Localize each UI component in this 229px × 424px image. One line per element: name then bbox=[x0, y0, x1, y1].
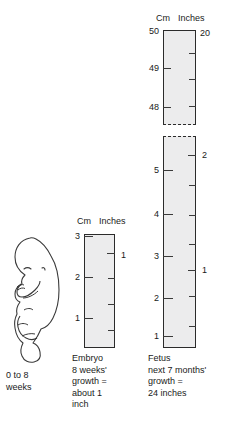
cm-label-5: 5 bbox=[143, 166, 159, 175]
embryo-illustration bbox=[4, 232, 72, 366]
cm-label-1: 1 bbox=[143, 332, 159, 341]
inch-label-20: 20 bbox=[200, 29, 210, 38]
ruler-edge-right bbox=[195, 30, 196, 125]
embryo-caption: Embryo 8 weeks' growth = about 1 inch bbox=[72, 353, 142, 411]
cm-tick-4 bbox=[163, 214, 173, 215]
ruler-edge-right bbox=[195, 136, 196, 348]
cm-tick-3 bbox=[84, 236, 93, 237]
cm-label-4: 4 bbox=[143, 210, 159, 219]
fetus-ruler-bottom bbox=[163, 136, 196, 348]
cm-label-48: 48 bbox=[143, 103, 159, 112]
cm-tick-48 bbox=[163, 107, 171, 108]
ruler-edge-left bbox=[84, 234, 85, 348]
cm-label-49: 49 bbox=[143, 64, 159, 73]
ruler-edge-left bbox=[163, 30, 164, 125]
embryo-inches-header: Inches bbox=[99, 216, 126, 226]
inch-minor-tick bbox=[189, 326, 196, 327]
inch-tick-1 bbox=[188, 270, 196, 271]
embryo-inch-label-1: 1 bbox=[121, 251, 126, 260]
inch-minor-tick bbox=[189, 244, 196, 245]
embryo-drawing-svg bbox=[4, 232, 72, 366]
embryo-body-outline bbox=[15, 238, 59, 362]
cm-tick-2 bbox=[163, 298, 173, 299]
inch-minor-tick bbox=[189, 296, 196, 297]
ruler-scale-break-bottom bbox=[163, 124, 196, 125]
ruler-edge-top bbox=[163, 30, 196, 31]
embryo-stage-caption: 0 to 8 weeks bbox=[6, 370, 68, 393]
cm-label-2: 2 bbox=[143, 294, 159, 303]
inch-label-1: 1 bbox=[202, 266, 207, 275]
inch-tick-2 bbox=[188, 155, 196, 156]
fetus-ruler-top bbox=[163, 30, 196, 125]
inch-minor-tick bbox=[189, 106, 196, 107]
cm-tick-5 bbox=[163, 170, 173, 171]
ruler-edge-left bbox=[163, 136, 164, 348]
embryo-cm-header: Cm bbox=[77, 216, 91, 226]
figure-canvas: Cm Inches 50 49 48 20 bbox=[0, 0, 229, 424]
fetus-top-cm-header: Cm bbox=[156, 13, 170, 23]
inch-minor-tick bbox=[189, 215, 196, 216]
cm-tick-3 bbox=[163, 256, 173, 257]
cm-tick-2 bbox=[84, 277, 93, 278]
inch-minor-tick bbox=[108, 304, 115, 305]
inch-minor-tick bbox=[189, 79, 196, 80]
inch-minor-tick bbox=[189, 185, 196, 186]
embryo-ruler bbox=[84, 234, 115, 348]
inch-tick-1 bbox=[107, 253, 115, 254]
cm-tick-1 bbox=[84, 318, 93, 319]
inch-minor-tick bbox=[108, 278, 115, 279]
ruler-edge-bottom bbox=[84, 347, 115, 348]
inch-minor-tick bbox=[189, 53, 196, 54]
cm-label-3: 3 bbox=[143, 252, 159, 261]
inch-minor-tick bbox=[108, 330, 115, 331]
ruler-edge-top bbox=[84, 234, 115, 235]
cm-tick-49 bbox=[163, 68, 171, 69]
fetus-caption: Fetus next 7 months' growth = 24 inches bbox=[148, 353, 228, 399]
ruler-edge-bottom bbox=[163, 347, 196, 348]
ruler-scale-break-top bbox=[163, 136, 196, 137]
inch-label-2: 2 bbox=[202, 151, 207, 160]
fetus-top-inches-header: Inches bbox=[178, 13, 205, 23]
cm-tick-1 bbox=[163, 336, 173, 337]
cm-label-50: 50 bbox=[143, 27, 159, 36]
